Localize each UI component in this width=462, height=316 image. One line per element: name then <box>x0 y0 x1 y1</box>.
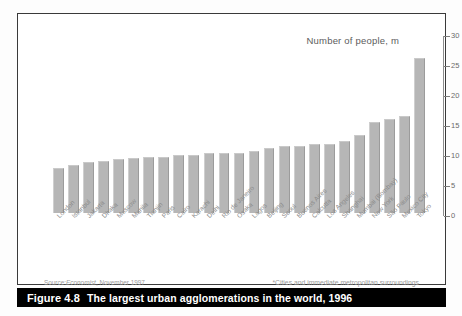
y-tick-label-0: 0 <box>451 212 455 220</box>
footnote-cities: *Cities and immediate metropolitan surro… <box>272 279 419 286</box>
y-tick-label-10: 10 <box>451 152 459 160</box>
y-axis: 051015202530 <box>443 36 446 216</box>
bar-fill <box>188 155 199 213</box>
y-tick-label-25: 25 <box>451 62 459 70</box>
source-publication: Economist <box>66 279 96 286</box>
figure-caption-bar: Figure 4.8 The largest urban agglomerati… <box>17 288 446 307</box>
y-tick-label-5: 5 <box>451 182 455 190</box>
source-note: Source:Economist, November 1997 <box>44 279 145 286</box>
figure-caption-number: Figure 4.8 <box>27 292 80 304</box>
bar-fill <box>294 146 305 213</box>
y-tick-5 <box>444 186 450 187</box>
figure-page: Number of people, m 051015202530 LondonI… <box>0 0 462 316</box>
y-tick-30 <box>444 36 450 37</box>
y-tick-15 <box>444 126 450 127</box>
y-tick-0 <box>444 216 450 217</box>
y-tick-25 <box>444 66 450 67</box>
y-tick-20 <box>444 96 450 97</box>
bar-series <box>51 34 427 213</box>
bar-fill <box>173 155 184 213</box>
y-tick-10 <box>444 156 450 157</box>
y-tick-label-15: 15 <box>451 122 459 130</box>
source-date: , November 1997 <box>96 279 145 286</box>
figure-frame: Number of people, m 051015202530 LondonI… <box>17 13 446 285</box>
bar-fill <box>219 153 230 213</box>
x-axis-labels: LondonIstanbulJakartaDhakaMoscowManilaTi… <box>51 215 427 273</box>
y-tick-label-30: 30 <box>451 32 459 40</box>
y-tick-label-20: 20 <box>451 92 459 100</box>
figure-caption-text: The largest urban agglomerations in the … <box>87 292 352 304</box>
source-prefix: Source: <box>44 279 66 286</box>
